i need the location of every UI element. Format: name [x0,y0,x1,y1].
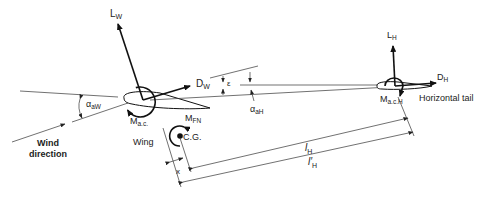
lift-tail-arrow [393,46,395,86]
moment-fuselage-label: MFN [185,113,201,124]
downwash-line [150,87,390,100]
lh-prime-label: l′H [308,156,317,169]
alpha-tail-label: αaH [250,104,264,115]
wing-chord-line [20,91,118,97]
alpha-wing-label: αaW [86,99,102,110]
drag-tail-label: DH [437,72,449,83]
cg-reference-line [180,138,191,172]
alpha-tail-arrow-bottom [251,90,254,101]
x-dimension-arrow [170,158,183,162]
diagram-canvas: LW DW ε αaW αaH Ma.c. MFN C.G. Wing Wind… [0,0,482,215]
lh-dimension-line [193,118,408,168]
lh-prime-dimension-line [183,132,413,182]
drag-wing-label: DW [196,78,210,90]
aircraft-stability-diagram: LW DW ε αaW αaH Ma.c. MFN C.G. Wing Wind… [0,0,482,215]
wind-direction-label-line2: direction [29,149,67,159]
lh-label: lH [305,142,312,155]
lift-wing-arrow [118,24,143,100]
alpha-wing-arc [79,99,82,118]
wing-label: Wing [133,137,154,147]
cg-label: C.G. [183,132,202,142]
cg-dot [177,133,183,139]
wind-direction-label-line1: Wind [37,138,59,148]
epsilon-ref-line [210,66,258,78]
lift-wing-label: LW [110,8,123,20]
wing-airfoil [124,92,210,109]
epsilon-label: ε [227,79,231,88]
lift-tail-label: LH [387,30,397,41]
horizontal-tail-label: Horizontal tail [419,93,474,103]
x-label: x [176,167,180,176]
